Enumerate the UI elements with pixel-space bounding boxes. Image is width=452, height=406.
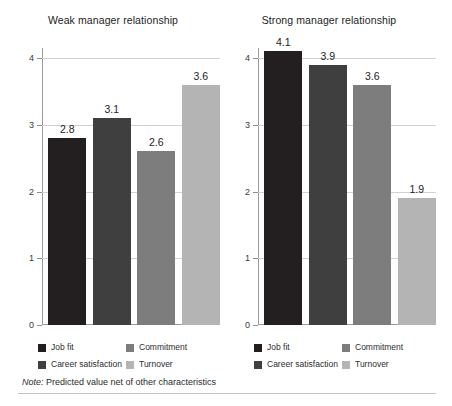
y-tick-mark-right-0 — [253, 325, 258, 326]
bar-value-label-right-career-satisfaction: 3.9 — [320, 50, 335, 62]
bar-right-commitment: 3.6 — [353, 85, 391, 325]
bar-value-label-left-turnover: 3.6 — [193, 70, 208, 82]
y-tick-mark-left-4 — [37, 58, 42, 59]
bar-right-job-fit: 4.1 — [264, 51, 302, 325]
bar-right-turnover: 1.9 — [398, 198, 436, 325]
bar-left-turnover: 3.6 — [182, 85, 220, 325]
legend-label: Career satisfaction — [51, 360, 122, 369]
legend-item-right-career-satisfaction: Career satisfaction — [254, 357, 342, 372]
bar-left-commitment: 2.6 — [137, 151, 175, 325]
y-tick-mark-left-3 — [37, 125, 42, 126]
note-text: Predicted value net of other characteris… — [44, 377, 217, 387]
y-tick-label-left-4: 4 — [29, 53, 34, 63]
y-tick-mark-left-2 — [37, 192, 42, 193]
figure-note: Note: Predicted value net of other chara… — [22, 377, 216, 387]
y-axis-line-left — [42, 48, 43, 325]
bar-value-label-right-commitment: 3.6 — [365, 70, 380, 82]
y-tick-label-left-2: 2 — [29, 187, 34, 197]
legend-swatch-icon-job-fit — [38, 344, 46, 352]
y-tick-mark-left-1 — [37, 258, 42, 259]
legend-label: Commitment — [355, 343, 403, 352]
chart-panel-weak-manager-relationship: Weak manager relationship 012342.83.12.6… — [2, 8, 224, 338]
legend-label: Job fit — [51, 343, 74, 352]
legend-item-left-job-fit: Job fit — [38, 340, 126, 355]
legend-label: Turnover — [355, 360, 389, 369]
y-tick-label-right-0: 0 — [245, 320, 250, 330]
legend-label: Job fit — [267, 343, 290, 352]
y-tick-label-right-2: 2 — [245, 187, 250, 197]
chart-title-right: Strong manager relationship — [218, 14, 440, 26]
gridline-left-4 — [42, 58, 220, 59]
chart-title-left: Weak manager relationship — [2, 14, 224, 26]
y-tick-mark-right-3 — [253, 125, 258, 126]
y-tick-mark-left-0 — [37, 325, 42, 326]
bar-left-career-satisfaction: 3.1 — [93, 118, 131, 325]
y-tick-mark-right-1 — [253, 258, 258, 259]
bar-value-label-right-turnover: 1.9 — [409, 183, 424, 195]
y-tick-label-left-1: 1 — [29, 253, 34, 263]
y-tick-mark-right-4 — [253, 58, 258, 59]
legend-item-left-commitment: Commitment — [126, 340, 213, 355]
legend-left: Job fitCareer satisfactionCommitmentTurn… — [38, 340, 213, 372]
y-axis-line-right — [258, 48, 259, 325]
bar-value-label-left-commitment: 2.6 — [149, 136, 164, 148]
bar-chart-figure: Weak manager relationship 012342.83.12.6… — [0, 0, 452, 406]
bar-value-label-right-job-fit: 4.1 — [276, 36, 291, 48]
y-tick-label-right-1: 1 — [245, 253, 250, 263]
legend-label: Career satisfaction — [267, 360, 338, 369]
bar-right-career-satisfaction: 3.9 — [309, 65, 347, 325]
y-tick-label-right-4: 4 — [245, 53, 250, 63]
legend-label: Commitment — [139, 343, 187, 352]
plot-area-right: 012344.13.93.61.9 — [258, 48, 436, 325]
legend-swatch-icon-turnover — [126, 361, 134, 369]
y-tick-label-left-3: 3 — [29, 120, 34, 130]
legend-swatch-icon-career-satisfaction — [38, 361, 46, 369]
legend-item-left-turnover: Turnover — [126, 357, 213, 372]
bar-value-label-left-career-satisfaction: 3.1 — [104, 103, 119, 115]
y-tick-label-right-3: 3 — [245, 120, 250, 130]
legend-swatch-icon-job-fit — [254, 344, 262, 352]
y-tick-mark-right-2 — [253, 192, 258, 193]
legend-item-right-commitment: Commitment — [342, 340, 429, 355]
y-tick-label-left-0: 0 — [29, 320, 34, 330]
legend-item-right-job-fit: Job fit — [254, 340, 342, 355]
legend-swatch-icon-commitment — [126, 344, 134, 352]
legend-right: Job fitCareer satisfactionCommitmentTurn… — [254, 340, 429, 372]
note-label: Note: — [22, 377, 44, 387]
plot-area-left: 012342.83.12.63.6 — [42, 48, 220, 325]
bar-left-job-fit: 2.8 — [48, 138, 86, 325]
legend-swatch-icon-commitment — [342, 344, 350, 352]
bar-value-label-left-job-fit: 2.8 — [60, 123, 75, 135]
legend-swatch-icon-turnover — [342, 361, 350, 369]
bottom-divider — [18, 393, 436, 394]
legend-swatch-icon-career-satisfaction — [254, 361, 262, 369]
chart-panel-strong-manager-relationship: Strong manager relationship 012344.13.93… — [218, 8, 440, 338]
legend-item-left-career-satisfaction: Career satisfaction — [38, 357, 126, 372]
legend-label: Turnover — [139, 360, 173, 369]
legend-item-right-turnover: Turnover — [342, 357, 429, 372]
